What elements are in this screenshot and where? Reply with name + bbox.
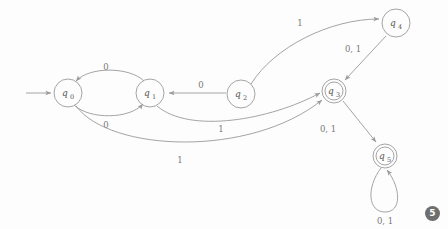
edge-q1-q0: 0 bbox=[76, 62, 144, 81]
edge-q5-self-loop: 0, 1 bbox=[371, 168, 398, 226]
node-label-q1: q bbox=[144, 88, 150, 98]
node-sub-q2: 2 bbox=[243, 94, 247, 102]
node-sub-q5: 5 bbox=[387, 156, 391, 164]
edge-q0-q1: 0 bbox=[74, 104, 143, 130]
edge-q3-q5: 0, 1 bbox=[320, 101, 376, 142]
node-q1[interactable]: q 1 bbox=[136, 79, 164, 107]
node-label-q0: q bbox=[62, 88, 68, 98]
node-sub-q1: 1 bbox=[152, 93, 156, 101]
node-sub-q0: 0 bbox=[70, 93, 74, 101]
node-sub-q4: 4 bbox=[398, 23, 402, 31]
edge-q0-q3: 1 bbox=[76, 100, 322, 165]
node-q5[interactable]: q 5 bbox=[373, 144, 397, 168]
edge-q1-q3: 1 bbox=[157, 93, 320, 134]
node-q3[interactable]: q 3 bbox=[322, 79, 346, 103]
node-label-q4: q bbox=[390, 18, 396, 28]
edge-label-q2-q1: 0 bbox=[198, 80, 203, 90]
node-label-q2: q bbox=[235, 89, 241, 99]
edge-label-q1-q0: 0 bbox=[103, 62, 108, 72]
diagram-canvas: 0 0 0 1 0, 1 1 1 bbox=[0, 0, 448, 229]
node-label-q5: q bbox=[379, 151, 385, 161]
edge-q4-q3: 0, 1 bbox=[345, 36, 386, 80]
edge-label-q4-q3: 0, 1 bbox=[345, 44, 361, 54]
edge-label-q1-q3: 1 bbox=[218, 124, 223, 134]
node-q4[interactable]: q 4 bbox=[382, 9, 410, 37]
page-badge: 5 bbox=[425, 206, 440, 221]
node-sub-q3: 3 bbox=[336, 91, 340, 99]
edge-label-q0-q3: 1 bbox=[177, 155, 182, 165]
node-q2[interactable]: q 2 bbox=[227, 80, 255, 108]
edge-label-q5-self-loop: 0, 1 bbox=[377, 216, 393, 226]
node-label-q3: q bbox=[328, 86, 334, 96]
state-machine-diagram: 0 0 0 1 0, 1 1 1 bbox=[0, 0, 448, 229]
edge-q2-q1: 0 bbox=[169, 80, 226, 93]
node-q0[interactable]: q 0 bbox=[54, 79, 82, 107]
edge-label-q2-q4: 1 bbox=[297, 18, 302, 28]
edge-label-q3-q5: 0, 1 bbox=[320, 124, 336, 134]
